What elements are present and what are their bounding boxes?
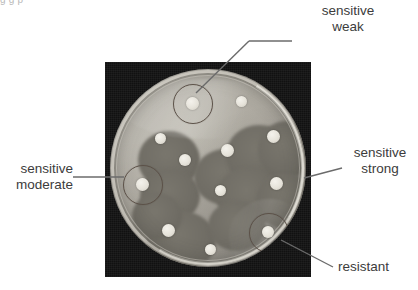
label-sensitive-weak: sensitive weak	[292, 3, 404, 35]
label-resistant-line1: resistant	[338, 259, 418, 275]
label-sensitive-moderate-line1: sensitive	[0, 161, 73, 177]
label-sensitive-weak-line1: sensitive	[292, 3, 404, 19]
label-sensitive-moderate-line2: moderate	[0, 177, 73, 193]
label-sensitive-strong-line1: sensitive	[342, 145, 418, 161]
label-sensitive-weak-line2: weak	[292, 19, 404, 35]
label-sensitive-moderate: sensitive moderate	[0, 161, 73, 193]
label-sensitive-strong-line2: strong	[342, 161, 418, 177]
leader-line-resistant	[281, 240, 333, 267]
label-resistant: resistant	[338, 259, 418, 275]
leader-line-sensitive-strong	[304, 168, 342, 178]
leader-line-sensitive-weak	[196, 41, 249, 93]
label-sensitive-strong: sensitive strong	[342, 145, 418, 177]
figure-canvas: g g p	[0, 0, 418, 290]
